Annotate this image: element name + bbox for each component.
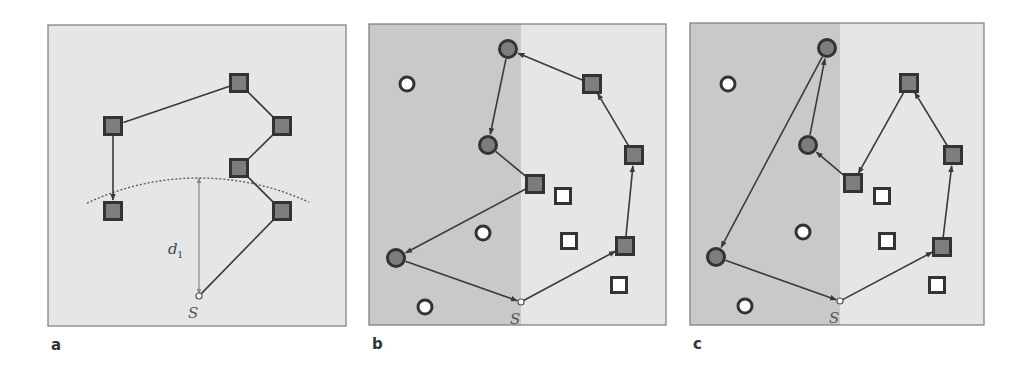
start-node [837, 298, 843, 304]
visited-circle-node [708, 249, 725, 266]
start-label: S [188, 304, 198, 322]
visited-square-node [527, 176, 544, 193]
panel-a: d1Sa [48, 25, 346, 354]
panel-b: Sb [369, 24, 666, 353]
visited-circle-node [819, 40, 836, 57]
unvisited-circle-node [400, 77, 414, 91]
unvisited-circle-node [721, 77, 735, 91]
visited-square-node [584, 76, 601, 93]
panel-background [48, 25, 346, 326]
unvisited-circle-node [796, 225, 810, 239]
visited-square-node [231, 160, 248, 177]
panel-label: a [51, 336, 61, 354]
visited-square-node [274, 118, 291, 135]
start-node [518, 299, 524, 305]
visited-circle-node [480, 137, 497, 154]
unvisited-square-node [556, 189, 571, 204]
shaded-region [369, 24, 521, 325]
panel-label: b [372, 335, 383, 353]
unvisited-square-node [930, 278, 945, 293]
visited-square-node [231, 75, 248, 92]
shaded-region [690, 23, 840, 325]
unvisited-square-node [562, 234, 577, 249]
panel-c: Sc [690, 23, 984, 353]
visited-square-node [105, 203, 122, 220]
visited-square-node [274, 203, 291, 220]
visited-square-node [945, 147, 962, 164]
visited-circle-node [500, 41, 517, 58]
unvisited-circle-node [418, 300, 432, 314]
visited-square-node [845, 175, 862, 192]
figure: d1Sa Sb Sc [0, 0, 1029, 376]
unvisited-square-node [612, 278, 627, 293]
start-label: S [510, 310, 520, 328]
distance-subscript: 1 [177, 249, 183, 260]
unvisited-circle-node [738, 299, 752, 313]
visited-square-node [105, 118, 122, 135]
panel-label: c [693, 335, 702, 353]
visited-circle-node [800, 137, 817, 154]
unvisited-circle-node [476, 226, 490, 240]
visited-square-node [626, 147, 643, 164]
visited-square-node [934, 239, 951, 256]
visited-square-node [901, 75, 918, 92]
start-node [196, 293, 202, 299]
unvisited-square-node [875, 189, 890, 204]
unvisited-square-node [880, 234, 895, 249]
visited-circle-node [388, 250, 405, 267]
visited-square-node [617, 238, 634, 255]
start-label: S [829, 309, 839, 327]
